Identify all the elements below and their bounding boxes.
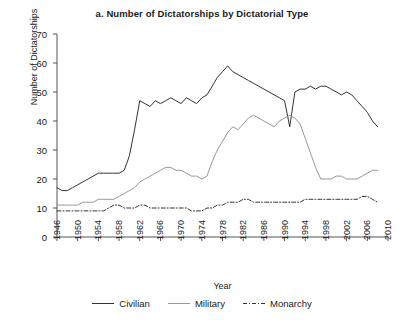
- legend-label: Military: [195, 298, 225, 309]
- legend-label: Civilian: [119, 298, 150, 309]
- legend-swatch-monarchy-icon: [243, 299, 265, 308]
- y-axis-tick-labels: 010203040506070: [0, 34, 55, 237]
- x-tick-label: 2006: [362, 220, 372, 240]
- x-tick-label: 1950: [73, 220, 83, 240]
- x-tick-label: 2010: [383, 220, 393, 240]
- chart-figure: a. Number of Dictatorships by Dictatoria…: [0, 0, 404, 325]
- series-line-civilian: [57, 66, 378, 191]
- x-tick-label: 1986: [259, 220, 269, 240]
- x-tick-label: 1946: [52, 220, 62, 240]
- y-tick-label: 0: [42, 232, 47, 243]
- x-tick-label: 1958: [114, 220, 124, 240]
- x-tick-label: 1974: [197, 220, 207, 240]
- x-tick-label: 1970: [176, 220, 186, 240]
- chart-title: a. Number of Dictatorships by Dictatoria…: [0, 8, 404, 19]
- legend-swatch-civilian-icon: [92, 299, 114, 308]
- axis-spines: [57, 34, 388, 237]
- x-tick-label: 1982: [238, 220, 248, 240]
- x-tick-label: 1998: [321, 220, 331, 240]
- x-tick-label: 1954: [93, 220, 103, 240]
- y-tick-label: 60: [36, 58, 47, 69]
- y-tick-label: 20: [36, 174, 47, 185]
- x-tick-label: 1966: [155, 220, 165, 240]
- series-line-military: [57, 115, 378, 205]
- legend-swatch-military-icon: [168, 299, 190, 308]
- x-tick-label: 1962: [135, 220, 145, 240]
- y-tick-label: 50: [36, 87, 47, 98]
- legend-item-civilian: Civilian: [92, 298, 150, 309]
- y-tick-label: 40: [36, 116, 47, 127]
- y-tick-label: 70: [36, 29, 47, 40]
- series-line-monarchy: [57, 196, 378, 211]
- x-tick-label: 1994: [300, 220, 310, 240]
- chart-legend: CivilianMilitaryMonarchy: [0, 298, 404, 309]
- x-axis-tick-labels: 1946195019541958196219661970197419781982…: [57, 240, 388, 280]
- plot-area: [57, 34, 388, 237]
- x-tick-label: 1978: [218, 220, 228, 240]
- y-tick-label: 10: [36, 203, 47, 214]
- legend-label: Monarchy: [270, 298, 312, 309]
- x-tick-label: 2002: [342, 220, 352, 240]
- chart-svg: [57, 34, 388, 237]
- legend-item-monarchy: Monarchy: [243, 298, 312, 309]
- x-axis-title: Year: [57, 281, 388, 291]
- y-tick-label: 30: [36, 145, 47, 156]
- x-tick-label: 1990: [280, 220, 290, 240]
- legend-item-military: Military: [168, 298, 225, 309]
